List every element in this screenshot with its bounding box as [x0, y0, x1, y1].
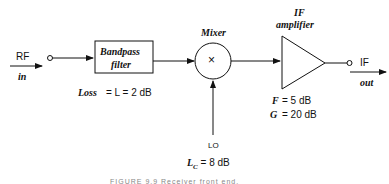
filter-title-1: Bandpass [100, 47, 140, 57]
amp-g-value: = 20 dB [282, 110, 317, 120]
input-terminal [48, 56, 53, 61]
amp-g-label: G [270, 110, 277, 120]
mixer-x-icon: × [208, 54, 215, 66]
if-amplifier-triangle [282, 36, 325, 89]
amp-title-2: amplifier [276, 20, 314, 30]
rf-label: RF [16, 52, 29, 62]
filter-loss-value: = L = 2 dB [106, 88, 152, 98]
if-label: IF [360, 58, 369, 68]
if-out-label: out [360, 78, 373, 88]
output-terminal [347, 61, 352, 66]
mixer-loss: LC = 8 dB [187, 158, 230, 171]
block-diagram [0, 0, 389, 184]
amp-f-label: F [272, 96, 279, 106]
amp-title-1: IF [294, 8, 305, 18]
mixer-title: Mixer [201, 28, 226, 38]
filter-loss-label: Loss [78, 88, 97, 98]
amp-f-value: = 5 dB [282, 96, 311, 106]
lo-label: LO [208, 142, 219, 150]
figure-caption: FIGURE 9.9 Receiver front end. [110, 178, 239, 184]
filter-title-2: filter [111, 60, 131, 70]
rf-in-label: in [18, 72, 26, 82]
